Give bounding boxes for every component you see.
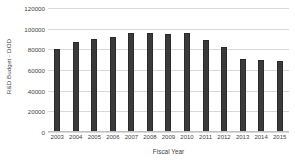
bar: [110, 37, 116, 132]
plot-area: [48, 8, 289, 132]
bar-slot: [159, 8, 178, 132]
x-tick-label: 2008: [141, 134, 160, 146]
bar-slot: [178, 8, 197, 132]
bar-chart-figure: R&D Budget - DOD 02000040000600008000010…: [0, 0, 295, 164]
y-axis-tick-labels: 020000400006000080000100000120000: [14, 0, 48, 140]
bar: [128, 33, 134, 132]
bar: [184, 33, 190, 132]
y-tick-label: 20000: [28, 108, 45, 115]
y-tick-label: 80000: [28, 46, 45, 53]
x-tick-label: 2005: [85, 134, 104, 146]
bar-slot: [104, 8, 123, 132]
bar-slot: [122, 8, 141, 132]
x-tick-label: 2006: [104, 134, 123, 146]
x-tick-label: 2014: [252, 134, 271, 146]
bar-slot: [233, 8, 252, 132]
y-tick-label: 60000: [28, 67, 45, 74]
bar: [277, 61, 283, 132]
x-axis-tick-labels: 2003200420052006200720082009201020112012…: [48, 134, 289, 146]
bar-slot: [48, 8, 67, 132]
gridline: [48, 132, 289, 133]
bar-slot: [252, 8, 271, 132]
y-tick-label: 0: [42, 129, 45, 136]
bar-slot: [270, 8, 289, 132]
bar: [91, 39, 97, 132]
bar-slot: [85, 8, 104, 132]
x-axis-title: Fiscal Year: [48, 148, 289, 155]
bar: [203, 40, 209, 132]
x-tick-label: 2009: [159, 134, 178, 146]
bar: [221, 47, 227, 132]
x-tick-label: 2003: [48, 134, 67, 146]
bar: [240, 59, 246, 132]
x-tick-label: 2015: [270, 134, 289, 146]
bar: [165, 34, 171, 132]
x-axis-baseline: [48, 131, 289, 132]
x-tick-label: 2007: [122, 134, 141, 146]
y-axis-title-text: R&D Budget - DOD: [6, 38, 13, 93]
bar-slot: [196, 8, 215, 132]
bar-slot: [67, 8, 86, 132]
y-tick-label: 120000: [24, 5, 45, 12]
x-tick-label: 2004: [67, 134, 86, 146]
y-tick-label: 100000: [24, 25, 45, 32]
bars-layer: [48, 8, 289, 132]
x-tick-label: 2010: [178, 134, 197, 146]
bar-slot: [215, 8, 234, 132]
x-tick-label: 2013: [233, 134, 252, 146]
bar: [258, 60, 264, 132]
bar: [73, 42, 79, 132]
bar: [147, 33, 153, 132]
y-tick-label: 40000: [28, 87, 45, 94]
x-tick-label: 2011: [196, 134, 215, 146]
bar-slot: [141, 8, 160, 132]
bar: [54, 49, 60, 132]
x-tick-label: 2012: [215, 134, 234, 146]
